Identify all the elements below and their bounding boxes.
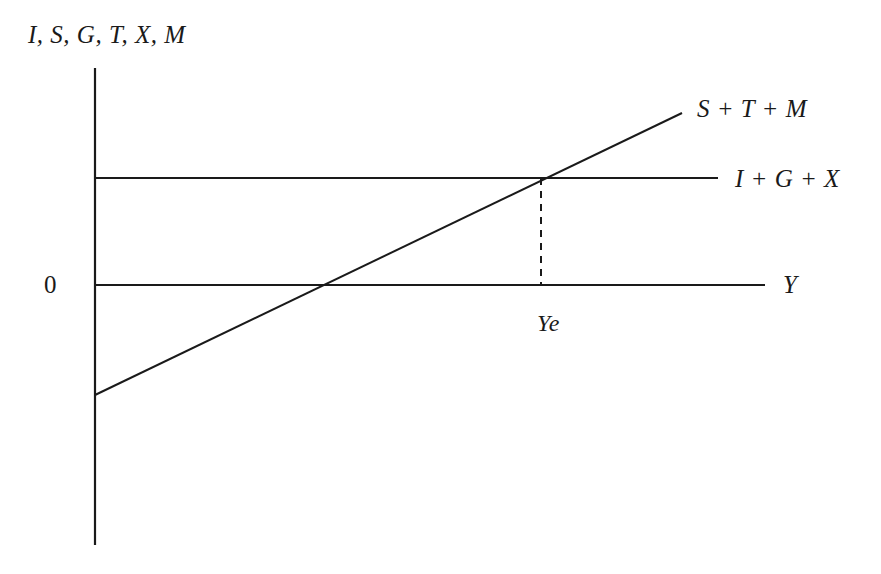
series-label-igx: I + G + X <box>735 166 840 191</box>
y-axis-title: I, S, G, T, X, M <box>28 22 186 47</box>
plot-area <box>0 0 881 574</box>
series-label-stm: S + T + M <box>697 96 807 121</box>
leakages-line-stm <box>95 113 682 395</box>
equilibrium-label-ye: Ye <box>537 311 560 335</box>
y-axis-tick-label-zero: 0 <box>44 272 57 297</box>
x-axis-label-y: Y <box>783 272 797 297</box>
economics-diagram: I, S, G, T, X, M S + T + M I + G + X Y 0… <box>0 0 881 574</box>
